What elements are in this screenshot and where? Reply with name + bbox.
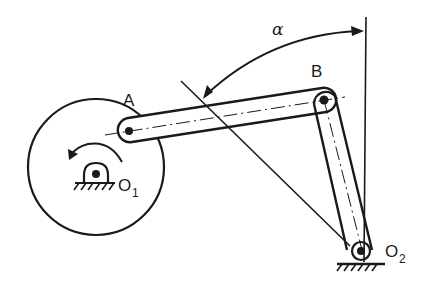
label-o1-subscript: 1	[132, 186, 139, 200]
linkage-diagram: O 1 A B O 2 α	[0, 0, 433, 288]
rotation-arrow-icon	[68, 143, 122, 162]
label-o2: O	[385, 242, 398, 261]
coupler-link-ab	[105, 88, 345, 142]
label-o2-subscript: 2	[399, 252, 406, 266]
label-o1: O	[118, 176, 131, 195]
label-b: B	[311, 62, 322, 81]
ground-pivot-o1	[74, 163, 115, 190]
angle-alpha-arc	[203, 26, 364, 99]
label-a: A	[123, 91, 135, 110]
rocker-link-bo2	[314, 92, 372, 250]
label-alpha: α	[272, 19, 284, 39]
